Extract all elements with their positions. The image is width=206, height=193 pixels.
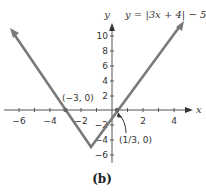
- x-tick-label: 4: [171, 116, 177, 126]
- point-label-right: (1/3, 0): [119, 135, 152, 145]
- x-axis-label: x: [196, 104, 202, 115]
- equation-label: y = |3x + 4| − 5: [124, 9, 206, 21]
- y-axis-label: y: [103, 9, 110, 20]
- y-tick-label: 10: [97, 31, 109, 41]
- graph: −6 −4 −2 2 4 10 8 6 4 2 −2 −4 −6 x y y =…: [0, 0, 206, 193]
- y-tick-label: 4: [102, 76, 108, 86]
- curve-arrow-left-icon: [10, 28, 19, 38]
- figure-caption: (b): [92, 172, 112, 186]
- y-axis-arrow-icon: [109, 23, 115, 31]
- x-tick-label: 2: [140, 116, 146, 126]
- x-tick-label: −4: [43, 116, 57, 126]
- y-tick-label: 6: [102, 61, 108, 71]
- y-tick-label: 8: [102, 46, 108, 56]
- y-tick-label: 2: [102, 91, 108, 101]
- point-label-left: (−3, 0): [62, 93, 94, 103]
- y-tick-label: −6: [95, 150, 109, 160]
- pointer-arrow-icon: [117, 112, 122, 118]
- intercept-point-left: [63, 108, 67, 112]
- x-tick-label: −6: [12, 116, 26, 126]
- x-axis-arrow-icon: [185, 107, 193, 113]
- intercept-point-right: [115, 108, 119, 112]
